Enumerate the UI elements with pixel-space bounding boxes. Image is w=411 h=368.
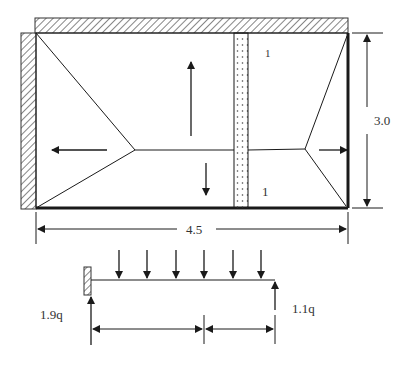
panel-label-top: 1	[265, 47, 271, 59]
distributed-load-arrows	[119, 250, 261, 278]
beam-model	[84, 250, 275, 345]
left-reaction-label: 1.9q	[40, 307, 63, 322]
height-dimension-label: 3.0	[374, 113, 390, 128]
top-wall-support	[35, 18, 348, 33]
right-reaction-label: 1.1q	[292, 301, 315, 316]
panel-label-bottom: 1	[262, 184, 269, 199]
beam-fixed-support	[84, 267, 91, 295]
width-dimension-label: 4.5	[186, 222, 202, 237]
left-wall-support	[21, 33, 36, 209]
dotted-strip	[234, 33, 248, 208]
beam-dimension	[93, 315, 275, 344]
slab-diagram: 1 1 3.0 4.5	[0, 0, 411, 368]
slab-outline	[36, 33, 348, 208]
load-arrows	[52, 62, 347, 195]
